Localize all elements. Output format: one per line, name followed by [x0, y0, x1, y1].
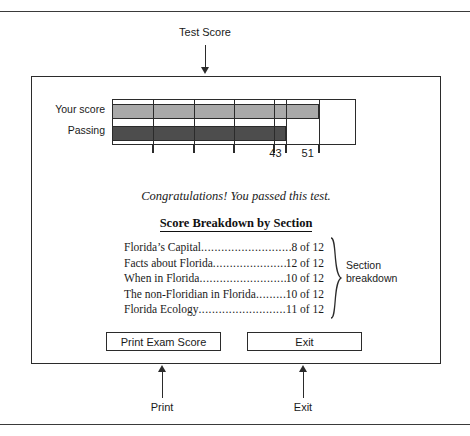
annotation-label-exit: Exit: [273, 401, 333, 413]
chart-tick-label-51: 51: [302, 147, 314, 159]
test-score-bar-chart: Your score Passing 4351: [46, 99, 370, 161]
annotation-label-print: Print: [132, 401, 192, 413]
chart-tick: [193, 145, 194, 153]
breakdown-section-score: 8 of 12: [291, 240, 324, 256]
score-report-dialog: Your score Passing 4351 Congratulations!…: [31, 76, 441, 364]
bar-your-score: [112, 104, 319, 119]
chart-category-label-passing: Passing: [68, 124, 105, 136]
breakdown-leader-dots: [256, 287, 286, 303]
breakdown-section-name: When in Florida: [124, 271, 199, 287]
breakdown-leader-dots: [199, 271, 285, 287]
chart-category-labels: Your score Passing: [46, 99, 108, 145]
breakdown-leader-dots: [198, 302, 286, 318]
annotation-arrow-test-score: [205, 45, 206, 69]
breakdown-row: Facts about Florida12 of 12: [124, 256, 324, 272]
arrow-head-up-exit-icon: [299, 365, 307, 372]
chart-category-label-your-score: Your score: [55, 103, 105, 115]
annotation-arrow-print: [162, 369, 163, 398]
chart-tick: [152, 145, 153, 153]
arrow-head-down-icon: [201, 67, 209, 74]
breakdown-row: Florida’s Capital8 of 12: [124, 240, 324, 256]
arrow-head-up-print-icon: [158, 365, 166, 372]
breakdown-row: The non-Floridian in Florida10 of 12: [124, 287, 324, 303]
chart-gridline: [274, 99, 275, 153]
print-exam-score-button[interactable]: Print Exam Score: [106, 332, 221, 351]
breakdown-section-score: 12 of 12: [286, 256, 324, 272]
breakdown-row: When in Florida10 of 12: [124, 271, 324, 287]
breakdown-row: Florida Ecology11 of 12: [124, 302, 324, 318]
breakdown-leader-dots: [201, 240, 291, 256]
page-bottom-rule: [0, 424, 470, 425]
breakdown-leader-dots: [213, 256, 286, 272]
curly-brace-icon: [329, 237, 343, 319]
breakdown-section-score: 10 of 12: [286, 287, 324, 303]
breakdown-heading: Score Breakdown by Section: [32, 216, 440, 231]
breakdown-section-name: Florida’s Capital: [124, 240, 201, 256]
chart-gridline: [153, 99, 154, 153]
bar-passing: [112, 126, 286, 141]
breakdown-section-name: The non-Floridian in Florida: [124, 287, 256, 303]
breakdown-heading-text: Score Breakdown by Section: [160, 216, 313, 232]
annotation-label-section-breakdown: Section breakdown: [346, 259, 416, 285]
chart-plot-area: [112, 99, 356, 145]
section-breakdown-line1: Section: [346, 259, 416, 272]
exit-button[interactable]: Exit: [247, 332, 362, 351]
breakdown-section-score: 11 of 12: [286, 302, 324, 318]
annotation-arrow-exit: [303, 369, 304, 398]
chart-tick: [233, 145, 234, 153]
breakdown-section-name: Facts about Florida: [124, 256, 213, 272]
pass-message: Congratulations! You passed this test.: [32, 189, 440, 204]
chart-tick-43: [285, 145, 286, 153]
page-top-rule: [0, 11, 470, 12]
chart-gridline-43: [286, 99, 287, 153]
breakdown-section-name: Florida Ecology: [124, 302, 198, 318]
chart-tick-51: [318, 145, 319, 153]
breakdown-section-score: 10 of 12: [286, 271, 324, 287]
annotation-label-test-score: Test Score: [155, 26, 255, 38]
section-breakdown-line2: breakdown: [346, 272, 416, 285]
score-breakdown-list: Florida’s Capital8 of 12Facts about Flor…: [124, 240, 324, 318]
chart-tick-label-43: 43: [269, 147, 281, 159]
chart-gridline-51: [319, 99, 320, 153]
chart-gridline: [194, 99, 195, 153]
chart-gridline: [234, 99, 235, 153]
